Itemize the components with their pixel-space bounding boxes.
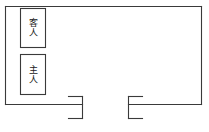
seat-box-guest (21, 9, 46, 48)
seating-floor-plan-diagram: 客 人 主 人 (0, 0, 209, 132)
door-jamb-right (129, 97, 143, 119)
seat-box-host (21, 55, 46, 95)
floor-plan-drawing (0, 0, 209, 132)
door-jamb-left (69, 97, 83, 119)
